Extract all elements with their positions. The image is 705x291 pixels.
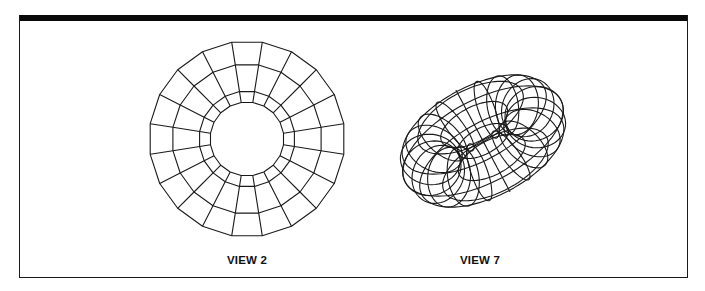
figure-canvas [0,0,705,291]
view-7-label: VIEW 7 [460,254,500,266]
view-2-label: VIEW 2 [227,254,267,266]
torus-wireframe-view-7 [400,75,565,207]
annulus-wireframe-view-2 [150,42,344,236]
